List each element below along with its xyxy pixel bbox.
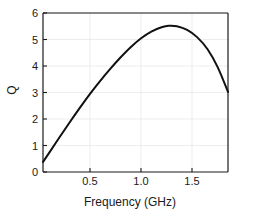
ytick-label-6: 6	[24, 8, 38, 19]
ytick-label-3: 3	[24, 88, 38, 99]
y-axis-label: Q	[6, 74, 18, 106]
chart-figure: 6 5 4 3 2 1 0 0.5 1.0 1.5 Frequency (GHz…	[0, 0, 260, 218]
ytick-label-0: 0	[24, 167, 38, 178]
ytick-label-1: 1	[24, 141, 38, 152]
xtick-label-1: 1.0	[126, 176, 156, 187]
ytick-label-2: 2	[24, 114, 38, 125]
xtick-label-0: 0.5	[75, 176, 105, 187]
x-axis-label: Frequency (GHz)	[0, 196, 260, 208]
ytick-label-4: 4	[24, 61, 38, 72]
ytick-label-5: 5	[24, 35, 38, 46]
xtick-label-2: 1.5	[177, 176, 207, 187]
